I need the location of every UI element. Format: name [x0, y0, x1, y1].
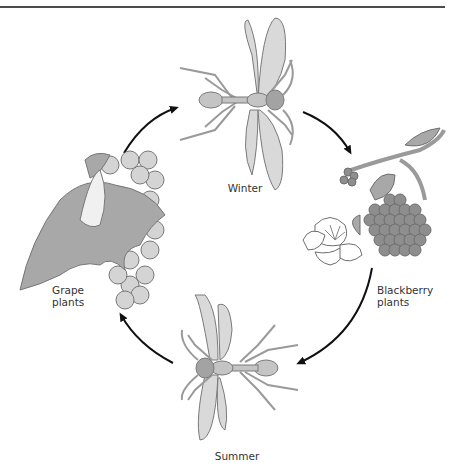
blackberry-plant-illustration: [303, 128, 444, 265]
small-berry-drupelet: [348, 178, 356, 186]
life-cycle-diagram: Winter Blackberry plants: [0, 0, 459, 469]
label-winter: Winter: [228, 182, 263, 194]
wasp-summer-illustration: [182, 295, 298, 440]
arrow-grape-to-winter: [124, 108, 176, 153]
grape-plant-illustration: [20, 151, 165, 309]
grape-berry: [131, 166, 149, 184]
small-berry-drupelet: [340, 176, 348, 184]
label-blackberry-line2: plants: [377, 296, 409, 308]
arrow-blackberry-to-summer: [299, 268, 372, 363]
label-blackberry-line1: Blackberry: [377, 284, 433, 296]
grape-berry: [141, 241, 159, 259]
label-summer: Summer: [215, 450, 260, 462]
blackberry-drupelet: [409, 244, 421, 256]
label-grape-line1: Grape: [52, 284, 84, 296]
wasp-winter-illustration: [180, 18, 293, 190]
arrow-summer-to-grape: [121, 315, 173, 363]
grape-berry: [136, 266, 154, 284]
label-grape-line2: plants: [52, 296, 84, 308]
arrow-winter-to-blackberry: [303, 112, 350, 152]
grape-berry: [116, 291, 134, 309]
